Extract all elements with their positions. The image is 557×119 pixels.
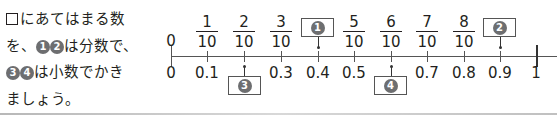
answer-box-3[interactable]: 3 [228,76,261,95]
decimal-label-1: 1 [521,64,551,82]
instruction-line-2: を、12は分数で、 [6,33,156,60]
fraction-2-10: 210 [229,14,259,50]
fraction-bar [380,31,402,32]
fraction-denominator: 10 [192,34,222,50]
instruction-line-2-pre: を、 [6,38,36,54]
decimal-label-0.1: 0.1 [192,64,222,82]
instruction-text: にあてはまる数 を、12は分数で、 34は小数でかき ましょう。 [6,6,156,112]
decimal-label-0.3: 0.3 [266,64,296,82]
fraction-bar [196,31,218,32]
fraction-denominator: 10 [412,34,442,50]
fraction-6-10: 610 [376,14,406,50]
decimal-label-0.7: 0.7 [412,64,442,82]
circled-number-4-icon: 4 [20,66,34,80]
fraction-numerator: 1 [192,14,222,30]
answer-box-1[interactable]: 1 [301,18,334,37]
fraction-numerator: 7 [412,14,442,30]
fraction-numerator: 3 [266,14,296,30]
instruction-line-2-post: は分数で、 [64,38,138,54]
fraction-8-10: 810 [449,14,479,50]
circled-number-4-icon: 4 [384,79,398,93]
instruction-line-3: 34は小数でかき [6,59,156,86]
pointer-dot-1 [317,46,320,49]
circled-number-2-icon: 2 [50,40,64,54]
circled-number-3-icon: 3 [238,79,252,93]
fraction-numerator: 8 [449,14,479,30]
fraction-5-10: 510 [339,14,369,50]
circled-number-3-icon: 3 [6,66,20,80]
fraction-bar [270,31,292,32]
fraction-numerator: 5 [339,14,369,30]
tick-0.2 [244,51,245,62]
decimal-label-0.5: 0.5 [339,64,369,82]
tick-0.7 [427,51,428,62]
fraction-denominator: 10 [339,34,369,50]
instruction-line-4: ましょう。 [6,86,156,113]
blank-square-icon [6,13,18,25]
fraction-numerator: 2 [229,14,259,30]
decimal-label-0.4: 0.4 [303,64,333,82]
decimal-label-0.8: 0.8 [449,64,479,82]
instruction-line-3-post: は小数でかき [34,64,124,80]
fraction-bar [233,31,255,32]
fraction-bar [343,31,365,32]
tick-0.3 [281,51,282,62]
fraction-7-10: 710 [412,14,442,50]
instruction-line-1: にあてはまる数 [6,6,156,33]
tick-0.6 [391,51,392,62]
tick-0.9 [500,51,501,62]
instruction-line-1-text: にあてはまる数 [20,11,125,27]
tick-0.8 [464,51,465,62]
fraction-numerator: 6 [376,14,406,30]
circled-number-1-icon: 1 [311,21,325,35]
fraction-bar [416,31,438,32]
top-label-0: 0 [161,32,181,50]
fraction-3-10: 310 [266,14,296,50]
tick-0.1 [207,51,208,62]
answer-box-2[interactable]: 2 [483,18,516,37]
tick-0.5 [354,51,355,62]
fraction-denominator: 10 [376,34,406,50]
fraction-1-10: 110 [192,14,222,50]
circled-number-1-icon: 1 [36,40,50,54]
pointer-dot-2 [499,46,502,49]
fraction-denominator: 10 [229,34,259,50]
section-divider [0,113,557,115]
fraction-denominator: 10 [449,34,479,50]
decimal-label-0: 0 [156,64,186,82]
tick-0.4 [318,51,319,62]
circled-number-2-icon: 2 [493,21,507,35]
answer-box-4[interactable]: 4 [374,76,407,95]
decimal-label-0.9: 0.9 [485,64,515,82]
fraction-bar [453,31,475,32]
fraction-denominator: 10 [266,34,296,50]
